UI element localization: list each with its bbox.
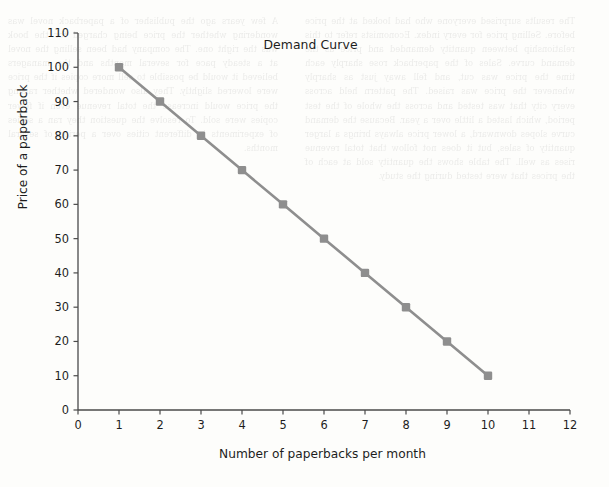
chart-series-demand (115, 63, 492, 380)
y-tick-label: 60 (55, 197, 70, 211)
x-tick-label: 2 (156, 418, 163, 432)
x-tick-label: 10 (481, 418, 496, 432)
x-tick-label: 6 (320, 418, 327, 432)
y-tick-label: 80 (55, 129, 70, 143)
x-tick-label: 1 (115, 418, 122, 432)
x-axis-title: Number of paperbacks per month (0, 447, 609, 461)
x-tick-label: 11 (522, 418, 537, 432)
x-tick-label: 5 (279, 418, 286, 432)
x-tick-label: 12 (563, 418, 578, 432)
x-tick-label: 4 (238, 418, 245, 432)
x-tick-label: 3 (197, 418, 204, 432)
demand-curve-chart: Demand Curve Number of paperbacks per mo… (0, 0, 609, 487)
x-tick-label: 8 (402, 418, 409, 432)
y-tick-label: 70 (55, 163, 70, 177)
y-tick-label: 0 (62, 403, 69, 417)
chart-canvas (0, 0, 609, 487)
y-axis-title: Price of a paperback (16, 62, 30, 232)
x-tick-label: 9 (443, 418, 450, 432)
y-tick-label: 100 (47, 60, 69, 74)
chart-title: Demand Curve (0, 37, 609, 52)
x-tick-label: 7 (361, 418, 368, 432)
y-tick-label: 110 (47, 26, 69, 40)
y-tick-label: 30 (55, 300, 70, 314)
y-tick-label: 90 (55, 95, 70, 109)
y-tick-label: 50 (55, 232, 70, 246)
x-tick-label: 0 (74, 418, 81, 432)
y-tick-label: 10 (55, 369, 70, 383)
y-tick-label: 40 (55, 266, 70, 280)
y-tick-label: 20 (55, 334, 70, 348)
